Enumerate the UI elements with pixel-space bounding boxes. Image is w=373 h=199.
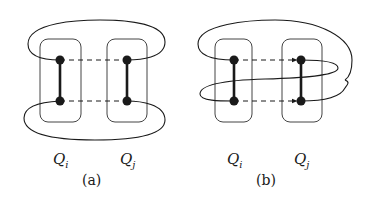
caption-b: (b) [256,172,276,188]
node [297,56,306,65]
node [123,56,132,65]
node [230,97,239,106]
label-qj-a: Qj [120,150,135,170]
panel-a [24,20,165,140]
caption-a: (a) [82,172,101,188]
node [230,56,239,65]
node [123,97,132,106]
node [297,97,306,106]
label-qi-b: Qi [227,150,243,170]
node [56,97,65,106]
node [56,56,65,65]
label-qj-b: Qj [294,150,309,170]
panel-b [198,20,352,122]
label-qi-a: Qi [53,150,69,170]
top-loop [28,20,165,60]
